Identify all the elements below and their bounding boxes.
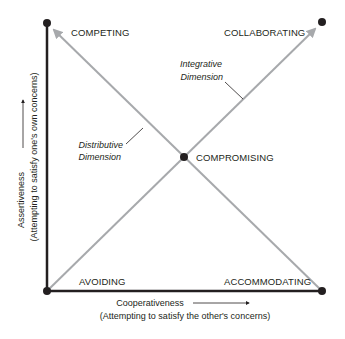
distributive-dimension-label-line1: Distributive <box>78 140 123 150</box>
avoiding-dot <box>43 287 51 295</box>
compromising-dot <box>180 153 188 161</box>
integrative-dimension-label-line1: Integrative <box>180 59 222 69</box>
avoiding-label: AVOIDING <box>79 276 126 287</box>
x-axis-sublabel: (Attempting to satisfy the other's conce… <box>100 311 270 321</box>
compromising-label: COMPROMISING <box>196 152 274 163</box>
collaborating-label: COLLABORATING <box>224 27 305 38</box>
conflict-modes-diagram: COMPETING COLLABORATING COMPROMISING AVO… <box>0 0 345 339</box>
accommodating-dot <box>318 287 326 295</box>
integrative-leader-line <box>225 82 243 99</box>
integrative-dimension-label-line2: Dimension <box>180 72 223 82</box>
competing-label: COMPETING <box>71 27 129 38</box>
y-axis-label: Assertiveness <box>16 171 26 228</box>
distributive-leader-line <box>126 128 143 144</box>
distributive-dimension-label-line2: Dimension <box>78 152 121 162</box>
accommodating-label: ACCOMMODATING <box>224 276 311 287</box>
x-axis-label: Cooperativeness <box>116 298 184 308</box>
y-axis-sublabel: (Attempting to satisfy one's own concern… <box>29 73 39 242</box>
competing-dot <box>43 19 51 27</box>
collaborating-dot <box>318 18 326 26</box>
